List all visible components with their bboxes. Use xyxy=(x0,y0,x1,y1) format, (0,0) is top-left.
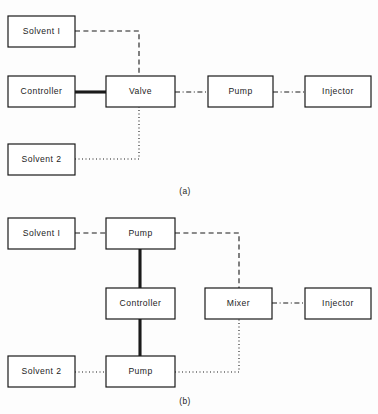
node-injector-b[interactable]: Injector xyxy=(305,288,371,319)
connector-pump-top-to-mixer xyxy=(175,233,239,288)
node-label: Solvent I xyxy=(23,26,61,36)
node-injector-a[interactable]: Injector xyxy=(305,76,371,107)
node-label: Solvent I xyxy=(23,228,61,238)
panel-a-caption: (a) xyxy=(179,186,191,196)
connector-solvent1-to-valve xyxy=(75,31,139,76)
node-label: Controller xyxy=(21,86,63,96)
node-pump-a[interactable]: Pump xyxy=(208,76,273,107)
node-label: Solvent 2 xyxy=(22,366,62,376)
node-label: Solvent 2 xyxy=(22,154,62,164)
node-pump-bottom-b[interactable]: Pump xyxy=(106,356,175,387)
node-controller-a[interactable]: Controller xyxy=(8,76,75,107)
panel-a: Solvent I Controller Valve Pump Injector… xyxy=(8,16,371,196)
node-solvent1-b[interactable]: Solvent I xyxy=(8,218,75,249)
node-label: Pump xyxy=(128,228,152,238)
node-pump-top-b[interactable]: Pump xyxy=(106,218,175,249)
node-label: Pump xyxy=(228,86,252,96)
node-solvent2-a[interactable]: Solvent 2 xyxy=(8,144,75,175)
node-solvent1-a[interactable]: Solvent I xyxy=(8,16,75,47)
flow-diagram: Solvent I Controller Valve Pump Injector… xyxy=(0,0,378,414)
figure-canvas: Solvent I Controller Valve Pump Injector… xyxy=(0,0,378,414)
connector-pump-bottom-to-mixer xyxy=(175,319,239,372)
node-controller-b[interactable]: Controller xyxy=(106,288,175,319)
node-solvent2-b[interactable]: Solvent 2 xyxy=(8,356,75,387)
node-label: Injector xyxy=(322,86,354,96)
node-label: Controller xyxy=(120,298,162,308)
node-label: Valve xyxy=(129,86,152,96)
connector-solvent2-to-valve xyxy=(75,107,139,159)
panel-b: Solvent I Pump Controller Mixer Injector… xyxy=(8,218,371,406)
node-valve-a[interactable]: Valve xyxy=(106,76,175,107)
node-label: Mixer xyxy=(227,298,250,308)
panel-b-caption: (b) xyxy=(179,396,191,406)
node-mixer-b[interactable]: Mixer xyxy=(205,288,272,319)
node-label: Pump xyxy=(128,366,152,376)
node-label: Injector xyxy=(322,298,354,308)
